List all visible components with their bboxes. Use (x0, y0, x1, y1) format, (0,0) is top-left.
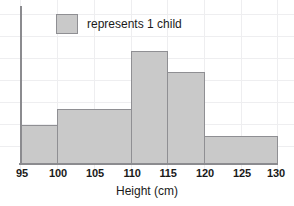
x-tick-label-130: 130 (267, 167, 285, 179)
chart-legend: represents 1 child (56, 14, 182, 34)
x-tick-label-110: 110 (123, 167, 140, 179)
x-tick-label-105: 105 (86, 167, 104, 179)
histogram-bar-115-120 (167, 72, 205, 164)
histogram-chart: 95 100 105 110 115 120 125 130 Height (c… (0, 0, 294, 206)
legend-label: represents 1 child (87, 17, 182, 31)
histogram-bar-110-115 (131, 51, 168, 164)
x-axis-line (19, 163, 278, 165)
x-tick-label-100: 100 (49, 167, 67, 179)
x-axis-title: Height (cm) (0, 184, 294, 198)
histogram-bar-95-100 (20, 125, 58, 164)
histogram-bar-120-130 (204, 136, 278, 164)
x-tick-label-120: 120 (196, 167, 214, 179)
y-axis-line (20, 6, 22, 164)
x-tick-label-125: 125 (233, 167, 251, 179)
x-tick-label-115: 115 (159, 167, 176, 179)
x-tick-label-95: 95 (16, 167, 28, 179)
histogram-bar-100-110 (57, 109, 132, 164)
legend-swatch-icon (56, 14, 78, 34)
